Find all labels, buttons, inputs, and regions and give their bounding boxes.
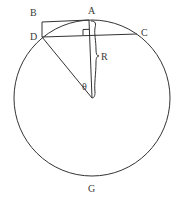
label-G: G <box>88 183 95 194</box>
label-D: D <box>30 31 37 42</box>
diagram-canvas: B A C D R θ G <box>0 0 177 201</box>
label-R: R <box>101 51 108 62</box>
radius-brace <box>91 21 99 98</box>
label-C: C <box>141 27 148 38</box>
radius-AO <box>89 20 92 98</box>
label-B: B <box>30 7 37 18</box>
label-A: A <box>88 5 96 16</box>
right-angle-marker <box>83 29 89 35</box>
label-theta: θ <box>82 81 87 92</box>
